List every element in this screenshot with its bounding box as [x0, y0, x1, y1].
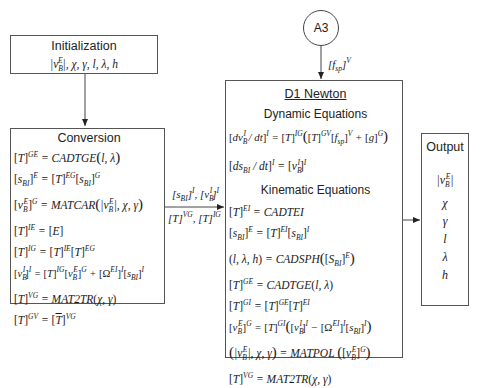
newton-title: D1 Newton — [229, 87, 402, 101]
initialization-variables: |vBE|, χ, γ, l, λ, h — [11, 53, 157, 77]
dynamic-heading: Dynamic Equations — [229, 107, 402, 121]
kinematic-eq-3: (l, λ, h) = CADSPH([SBI]E) — [229, 247, 402, 273]
output-item-lambda: λ — [422, 248, 468, 266]
kinematic-eq-5: [T]GI = [T]GE[T]EI — [229, 294, 402, 315]
output-item-speed: |vBE| — [422, 168, 468, 194]
kinematic-eq-6: [vBE]G = [T]GI([vBI]I − [ΩEI]I[sBI]I) — [229, 315, 402, 341]
newton-block: D1 Newton Dynamic Equations [dvBI / dt]I… — [225, 80, 403, 358]
conversion-eq-2: [sBI]E = [T]EG[sBI]G — [14, 167, 164, 193]
output-item-gamma: γ — [422, 212, 468, 230]
output-title: Output — [422, 140, 468, 154]
dynamic-eq-2: [dsBI / dt]I = [vBI]I — [229, 153, 402, 181]
kinematic-eq-7: (|vBE|, χ, γ) = MATPOL ([vBE]G) — [229, 341, 402, 367]
force-input-label: [fsp]V — [328, 56, 351, 73]
initialization-title: Initialization — [11, 39, 157, 53]
conversion-eq-3: [vBE]G = MATCAR(|vBE|, χ, γ) — [14, 193, 164, 219]
output-list: |vBE| χ γ l λ h — [422, 168, 468, 284]
conversion-eq-1: [T]GE = CADTGE(l, λ) — [14, 146, 164, 167]
output-block: Output |vBE| χ γ l λ h — [421, 133, 469, 306]
conversion-eq-6: [vBI]I = [T]IG[vBE]G + [ΩEI]I[sBI]I — [14, 261, 164, 287]
conversion-block: Conversion [T]GE = CADTGE(l, λ) [sBI]E =… — [10, 128, 165, 304]
output-item-chi: χ — [422, 194, 468, 212]
conversion-title: Conversion — [14, 131, 164, 145]
conversion-eq-7: [T]VG = MAT2TR(χ, γ) — [14, 287, 164, 308]
kinematic-heading: Kinematic Equations — [229, 183, 402, 197]
connector-a3-label: A3 — [314, 21, 329, 35]
conversion-eq-4: [T]IE = [E] — [14, 219, 164, 240]
output-item-h: h — [422, 266, 468, 284]
output-item-l: l — [422, 230, 468, 248]
conversion-eq-8: [T]GV = [T]VG — [14, 308, 164, 329]
initialization-block: Initialization |vBE|, χ, γ, l, λ, h — [10, 35, 158, 74]
dynamic-eq-1: [dvBI / dt]I = [T]IG([T]GV[fsp]V + [g]G) — [229, 123, 402, 153]
connector-a3: A3 — [303, 10, 339, 46]
kinematic-eq-8: [T]VG = MAT2TR(χ, γ) — [229, 367, 402, 388]
kinematic-eq-2: [sBI]E = [T]EI[sBI]I — [229, 221, 402, 247]
kinematic-eq-4: [T]GE = CADTGE(l, λ) — [229, 273, 402, 294]
kinematic-eq-1: [T]EI = CADTEI — [229, 200, 402, 221]
conversion-eq-5: [T]IG = [T]IE[T]EG — [14, 240, 164, 261]
link-label-top: [sBI]I, [vBI]I — [172, 186, 219, 203]
link-label-bottom: [T]VG, [T]IG — [168, 210, 221, 224]
